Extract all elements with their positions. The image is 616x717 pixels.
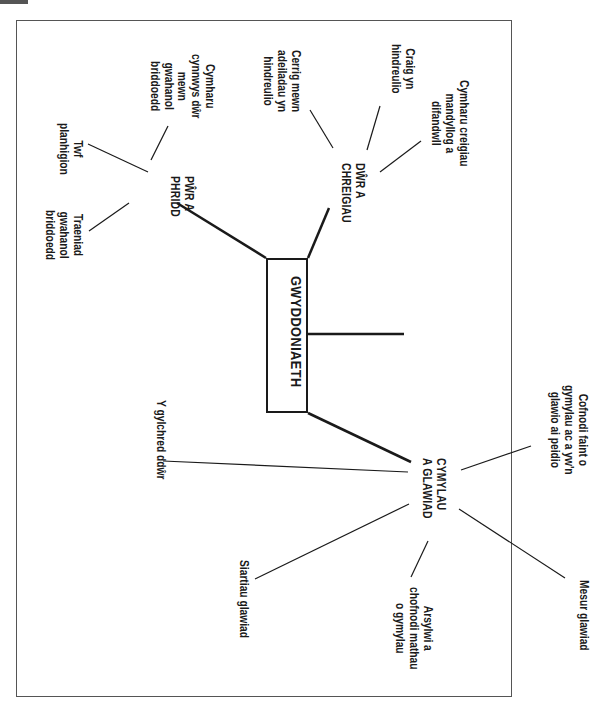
hub-cymylau-a-glawiad: CYMYLAU A GLAWIAD [419,458,448,519]
leaf-twf-planhigion: Twf planhigion [57,123,85,175]
link-cym-mesur [459,509,565,578]
leaf-cofnodi-faint-gymylau: Cofnodi faint o gymylau ac a yw'n glawio… [548,385,589,475]
link-center-cymylau-a-glawiad [308,413,411,462]
leaf-traeniad: Traeniad gwahanol briddoedd [43,210,84,260]
link-dwr-craig [367,106,380,150]
leaf-mesur-glawiad: Mesur glawiad [576,580,590,651]
link-pwr-cymharu [151,126,168,160]
hub-pwr-a-phridd: PŴR A PHRIDD [167,176,196,217]
leaf-cerrig-mewn-adeiladau: Cerrig mewn adeiladau yn hindreulio [261,50,302,112]
link-cym-siartiau [255,504,409,579]
link-dwr-cymharu [380,141,421,172]
center-node-label: GWYDDONIAETH [288,276,304,388]
leaf-arsylwi-mathau: Arsylwi a chofnodi mathau o gymylau [393,587,434,670]
link-cym-gylchred [163,461,408,472]
link-center-dwr-a-chreigiau [308,208,329,258]
leaf-siartiau-glawiad: Siartiau glawiad [236,560,250,638]
leaf-cymharu-cynnwys-dwr: Cymharu cynnwys dŵr mewn gwahanol briddo… [147,54,216,118]
link-dwr-cerrig [310,110,333,148]
link-cym-cofnodi [461,446,531,470]
link-pwr-twf [88,144,148,172]
leaf-y-gylchred-ddwr: Y gylchred ddŵr [153,400,167,480]
link-cym-arsylwi [411,541,428,577]
leaf-cymharu-creigiau: Cymharu creigiau mandyllog a difandwll [429,80,470,167]
leaf-craig-yn-hindreulio: Craig yn hindreulio [389,44,417,94]
mind-map-links [0,0,616,717]
hub-dwr-a-chreigiau: DŴR A CHREIGIAU [338,163,367,223]
link-pwr-traeniad [89,203,129,231]
